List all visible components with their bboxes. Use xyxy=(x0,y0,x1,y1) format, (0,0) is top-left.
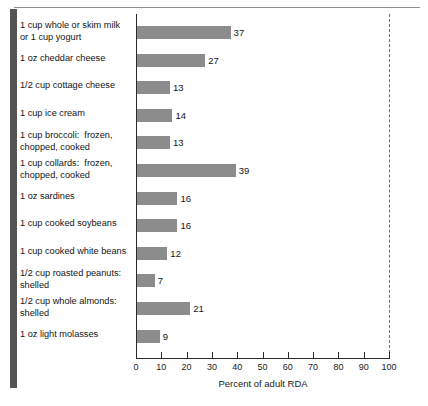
x-axis-tick xyxy=(212,352,213,358)
bar-value-label: 14 xyxy=(175,109,186,122)
bar-value-label: 13 xyxy=(173,81,184,94)
bar-row: 1 cup collards: frozen, chopped, cooked3… xyxy=(20,162,420,190)
bar-row-label: 1 oz cheddar cheese xyxy=(20,53,132,65)
x-axis-tick-label: 70 xyxy=(308,362,318,373)
x-axis-tick-label: 30 xyxy=(207,362,217,373)
x-axis-tick xyxy=(389,352,390,358)
bar xyxy=(137,26,231,39)
x-axis-tick xyxy=(237,352,238,358)
bar-row-label: 1 cup ice cream xyxy=(20,108,132,120)
bar-row-label: 1 oz light molasses xyxy=(20,329,132,341)
bar-row-label: 1/2 cup whole almonds: shelled xyxy=(20,296,132,319)
x-axis-tick xyxy=(187,352,188,358)
bar-row-label: 1/2 cup cottage cheese xyxy=(20,80,132,92)
bar xyxy=(137,109,172,122)
bar-value-label: 16 xyxy=(180,192,191,205)
y-axis-line xyxy=(136,14,137,358)
bar-row: 1 cup whole or skim milk or 1 cup yogurt… xyxy=(20,24,420,52)
bar-row-label: 1 cup whole or skim milk or 1 cup yogurt xyxy=(20,20,132,43)
bar xyxy=(137,274,155,287)
plot-area: 1 cup whole or skim milk or 1 cup yogurt… xyxy=(20,10,420,358)
bar-row-label: 1 cup cooked white beans xyxy=(20,246,132,258)
x-axis-tick xyxy=(136,352,137,358)
bar-value-label: 9 xyxy=(163,330,168,343)
bar xyxy=(137,136,170,149)
reference-line-100 xyxy=(389,14,390,358)
bar-value-label: 27 xyxy=(208,54,219,67)
bar-value-label: 37 xyxy=(234,26,245,39)
bar-row-label: 1/2 cup roasted peanuts: shelled xyxy=(20,268,132,291)
x-axis-title: Percent of adult RDA xyxy=(136,378,390,389)
page-top-rule xyxy=(14,7,420,8)
bar-row-label: 1 cup cooked soybeans xyxy=(20,218,132,230)
page-gutter-shadow xyxy=(10,9,17,388)
bar-value-label: 12 xyxy=(170,247,181,260)
bar xyxy=(137,247,167,260)
bar-value-label: 7 xyxy=(158,274,163,287)
bar xyxy=(137,219,177,232)
bar-row: 1 oz light molasses9 xyxy=(20,328,420,356)
x-axis-tick xyxy=(263,352,264,358)
bar-row: 1 cup cooked soybeans16 xyxy=(20,217,420,245)
x-axis-tick-label: 10 xyxy=(156,362,166,373)
bar xyxy=(137,192,177,205)
x-axis-tick-label: 40 xyxy=(232,362,242,373)
bar xyxy=(137,302,190,315)
bar xyxy=(137,54,205,67)
x-axis-tick-label: 60 xyxy=(283,362,293,373)
x-axis-tick xyxy=(338,352,339,358)
bar-row-label: 1 oz sardines xyxy=(20,191,132,203)
bar-row: 1/2 cup whole almonds: shelled21 xyxy=(20,300,420,328)
bar-value-label: 21 xyxy=(193,302,204,315)
x-axis-tick-label: 100 xyxy=(381,362,396,373)
bar xyxy=(137,164,236,177)
x-axis-tick-label: 20 xyxy=(182,362,192,373)
bar-row-label: 1 cup collards: frozen, chopped, cooked xyxy=(20,158,132,181)
bar-value-label: 39 xyxy=(239,164,250,177)
x-axis-tick-label: 80 xyxy=(333,362,343,373)
x-axis-tick-label: 0 xyxy=(133,362,138,373)
bar-row-label: 1 cup broccoli: frozen, chopped, cooked xyxy=(20,130,132,153)
bar-row: 1 oz sardines16 xyxy=(20,190,420,218)
bar-value-label: 16 xyxy=(180,219,191,232)
bar-chart-figure: 1 cup whole or skim milk or 1 cup yogurt… xyxy=(20,10,420,400)
bar-row: 1/2 cup cottage cheese13 xyxy=(20,79,420,107)
x-axis-tick xyxy=(364,352,365,358)
x-axis-tick xyxy=(313,352,314,358)
x-axis-line xyxy=(136,358,390,359)
bar-row: 1 oz cheddar cheese27 xyxy=(20,52,420,80)
x-axis-tick xyxy=(161,352,162,358)
bar xyxy=(137,330,160,343)
x-axis-tick xyxy=(288,352,289,358)
bar xyxy=(137,81,170,94)
x-axis-tick-label: 50 xyxy=(257,362,267,373)
x-axis-tick-label: 90 xyxy=(359,362,369,373)
bar-value-label: 13 xyxy=(173,136,184,149)
